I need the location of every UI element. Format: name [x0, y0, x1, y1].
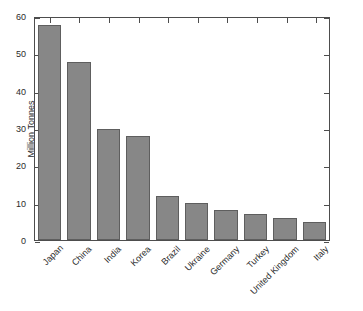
- bar-slot: [35, 18, 64, 240]
- bar-slot: [153, 18, 182, 240]
- y-tick-mark: [35, 242, 40, 243]
- bar[interactable]: [244, 214, 268, 240]
- y-tick-label: 30: [16, 125, 26, 134]
- bar-slot: [182, 18, 211, 240]
- bar[interactable]: [273, 218, 297, 240]
- y-tick-label: 60: [16, 13, 26, 22]
- plot-area: [34, 17, 330, 241]
- bar[interactable]: [185, 203, 209, 240]
- bar[interactable]: [38, 25, 62, 240]
- bar[interactable]: [67, 62, 91, 240]
- bar-chart-figure: Million Tonnes 0102030405060 JapanChinaI…: [0, 0, 363, 311]
- y-tick-label: 10: [16, 199, 26, 208]
- bar[interactable]: [214, 210, 238, 240]
- y-tick-mark: [324, 242, 329, 243]
- y-tick-label: 40: [16, 87, 26, 96]
- bar-series: [35, 18, 329, 240]
- y-tick-label: 0: [21, 237, 26, 246]
- bar[interactable]: [156, 196, 180, 240]
- bar-slot: [94, 18, 123, 240]
- y-tick-label: 20: [16, 162, 26, 171]
- y-tick-label: 50: [16, 50, 26, 59]
- bar-slot: [300, 18, 329, 240]
- bar-slot: [270, 18, 299, 240]
- bar[interactable]: [126, 136, 150, 240]
- bar[interactable]: [97, 129, 121, 240]
- bar-slot: [211, 18, 240, 240]
- x-tick-label: Japan: [41, 244, 64, 267]
- x-axis-tick-labels: JapanChinaIndiaKoreaBrazilUkraineGermany…: [34, 244, 330, 308]
- bar-slot: [123, 18, 152, 240]
- bar[interactable]: [303, 222, 327, 240]
- bar-slot: [64, 18, 93, 240]
- bar-slot: [241, 18, 270, 240]
